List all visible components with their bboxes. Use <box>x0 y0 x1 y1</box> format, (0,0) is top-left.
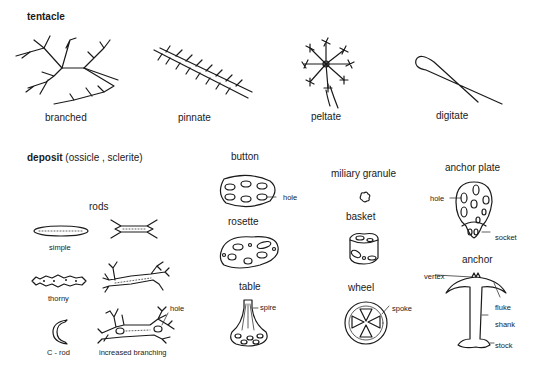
miliary-granule-title: miliary granule <box>331 168 396 179</box>
increased-branching-hole-label: hole <box>170 304 184 313</box>
digitate-label: digitate <box>436 110 468 121</box>
c-rod-label: C - rod <box>47 348 70 357</box>
tentacle-heading: tentacle <box>27 11 65 22</box>
deposit-heading: deposit (ossicle , sclerite) <box>27 152 143 163</box>
miliary-granule-figure <box>359 191 371 203</box>
deposit-title: deposit <box>27 152 63 163</box>
anchor-title: anchor <box>462 254 493 265</box>
peltate-tentacle-figure <box>304 40 354 108</box>
c-rod-figure <box>51 318 71 346</box>
wheel-deposit-figure <box>343 300 389 346</box>
branched-label: branched <box>45 112 87 123</box>
anchor-stock-label: stock <box>495 341 513 350</box>
anchor-vertex-label: vertex <box>424 272 444 281</box>
branched-rod-figure <box>101 260 171 296</box>
button-deposit-figure <box>218 175 278 209</box>
increased-branching-rod-figure <box>96 305 176 345</box>
rosette-title: rosette <box>228 216 259 227</box>
rosette-deposit-figure <box>218 235 280 269</box>
anchor-plate-hole-label: hole <box>430 194 444 203</box>
branched-tentacle-figure <box>14 36 124 106</box>
anchor-plate-socket-label: socket <box>495 233 517 242</box>
rods-title: rods <box>89 201 108 212</box>
deposit-subtitle: (ossicle , sclerite) <box>65 152 142 163</box>
anchor-plate-figure <box>454 180 494 240</box>
peltate-label: peltate <box>311 111 341 122</box>
simple-rod-figure <box>33 224 89 238</box>
basket-deposit-figure <box>346 232 382 266</box>
simple-rod-label: simple <box>49 243 71 252</box>
wheel-title: wheel <box>348 282 374 293</box>
button-title: button <box>231 151 259 162</box>
basket-title: basket <box>346 211 375 222</box>
table-title: table <box>239 281 261 292</box>
pinnate-tentacle-figure <box>152 46 252 102</box>
button-hole-label: hole <box>283 193 297 202</box>
anchor-fluke-label: fluke <box>495 303 511 312</box>
increased-branching-label: increased branching <box>99 348 167 357</box>
pinnate-label: pinnate <box>178 112 211 123</box>
digitate-tentacle-figure <box>414 50 506 106</box>
forked-rod-figure <box>109 218 159 240</box>
anchor-shank-label: shank <box>495 320 515 329</box>
thorny-rod-label: thorny <box>48 294 69 303</box>
wheel-spoke-label: spoke <box>392 304 412 313</box>
table-spire-label: spire <box>260 303 276 312</box>
anchor-figure <box>444 273 508 351</box>
anchor-plate-title: anchor plate <box>445 162 500 173</box>
thorny-rod-figure <box>30 274 88 288</box>
